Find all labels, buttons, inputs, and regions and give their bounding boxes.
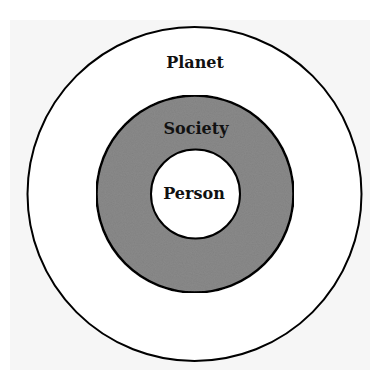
concentric-diagram: Planet Society Person <box>0 0 385 384</box>
society-label: Society <box>164 119 230 138</box>
person-label: Person <box>163 184 225 203</box>
planet-label: Planet <box>166 53 224 72</box>
